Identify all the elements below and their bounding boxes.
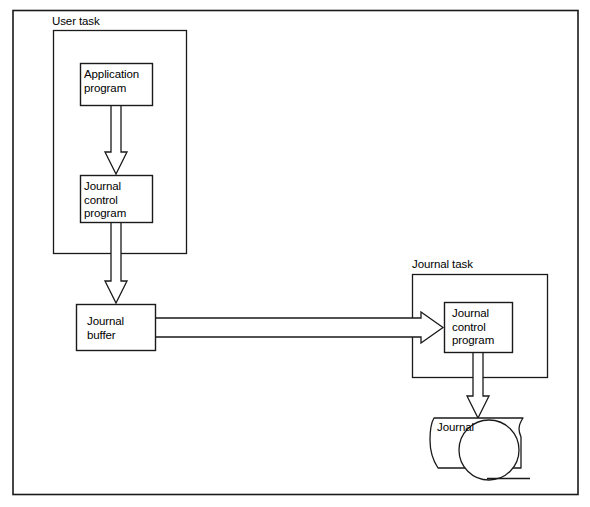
application-program-label: Application program [84,68,152,95]
journal-buffer-label: Journal buffer [87,315,155,342]
diagram-canvas: User task Journal task Application progr… [0,0,590,507]
journal-control-program-user-label: Journal control program [84,180,152,221]
journal-control-program-task-label: Journal control program [452,307,516,348]
user-task-label: User task [52,15,100,28]
journal-store-label: Journal [437,421,474,434]
journal-task-label: Journal task [412,258,473,271]
